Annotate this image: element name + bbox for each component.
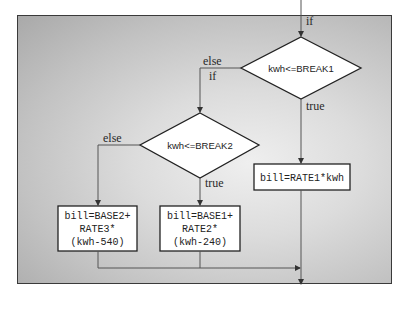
action-rate1-text: bill=RATE1*kwh bbox=[260, 173, 344, 184]
decision-break1-text: kwh<=BREAK1 bbox=[268, 63, 333, 74]
entry-label: if bbox=[306, 14, 313, 28]
true-label-2: true bbox=[205, 176, 224, 190]
action-base2-line1: bill=BASE2+ bbox=[64, 211, 130, 222]
action-base2-line3: (kwh-540) bbox=[70, 237, 124, 248]
decision-break2-text: kwh<=BREAK2 bbox=[167, 140, 232, 151]
else-label-2: else bbox=[103, 131, 122, 145]
else-connector-2 bbox=[98, 145, 140, 205]
action-base2-line2: RATE3* bbox=[79, 224, 115, 235]
else-label-1: else bbox=[203, 54, 222, 68]
else-if-connector bbox=[200, 68, 241, 112]
else-if-label: if bbox=[209, 69, 216, 83]
true-label-1: true bbox=[306, 99, 325, 113]
action-base1-line1: bill=BASE1+ bbox=[167, 211, 233, 222]
merge-connector-left bbox=[98, 251, 300, 268]
action-base1-line3: (kwh-240) bbox=[173, 237, 227, 248]
flowchart-diagram: if kwh<=BREAK1 else if true kwh<=BREAK2 … bbox=[0, 0, 407, 313]
action-base1-line2: RATE2* bbox=[182, 224, 218, 235]
flowchart-canvas: if kwh<=BREAK1 else if true kwh<=BREAK2 … bbox=[0, 0, 407, 313]
